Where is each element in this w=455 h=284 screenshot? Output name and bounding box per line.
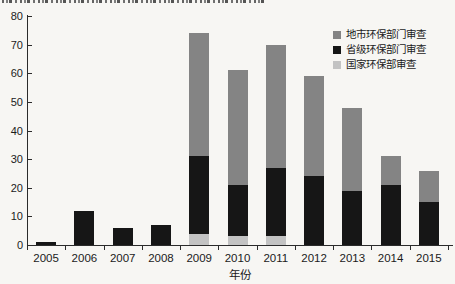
x-tick-7	[295, 246, 296, 250]
bar-2005	[36, 242, 56, 245]
y-tick-40	[28, 131, 32, 132]
x-tick-8	[333, 246, 334, 250]
x-axis-title: 年份	[27, 266, 453, 282]
x-tick-11	[448, 246, 449, 250]
bar-2008	[151, 225, 171, 245]
x-tick-label-2014: 2014	[371, 252, 411, 264]
legend-swatch-provincial	[333, 46, 341, 54]
bar-2011	[266, 45, 286, 245]
bar-segment-provincial-2013	[342, 191, 362, 245]
y-tick-label-40: 40	[0, 126, 23, 137]
x-tick-label-2006: 2006	[64, 252, 104, 264]
y-tick-80	[28, 16, 32, 17]
x-tick-3	[142, 246, 143, 250]
y-tick-60	[28, 73, 32, 74]
legend-label-municipal: 地市环保部门审查	[346, 29, 426, 40]
bar-segment-provincial-2008	[151, 225, 171, 245]
legend: 地市环保部门审查省级环保部门审查国家环保部审查	[333, 29, 426, 70]
y-tick-label-60: 60	[0, 68, 23, 79]
legend-swatch-national	[333, 61, 341, 69]
x-tick-label-2008: 2008	[141, 252, 181, 264]
legend-swatch-municipal	[333, 31, 341, 39]
x-tick-10	[410, 246, 411, 250]
bar-2012	[304, 76, 324, 245]
x-tick-1	[65, 246, 66, 250]
bar-segment-municipal-2013	[342, 108, 362, 191]
y-tick-label-20: 20	[0, 183, 23, 194]
x-tick-label-2005: 2005	[26, 252, 66, 264]
bar-segment-national-2010	[228, 236, 248, 245]
x-tick-5	[218, 246, 219, 250]
bar-segment-municipal-2014	[381, 156, 401, 185]
y-tick-label-70: 70	[0, 40, 23, 51]
bar-2010	[228, 70, 248, 245]
x-tick-label-2013: 2013	[332, 252, 372, 264]
y-tick-label-10: 10	[0, 211, 23, 222]
x-axis-line	[27, 245, 453, 246]
bar-segment-municipal-2010	[228, 70, 248, 185]
stacked-bar-chart: 01020304050607080 2005200620072008200920…	[0, 0, 455, 284]
bar-2006	[74, 211, 94, 245]
y-tick-label-80: 80	[0, 11, 23, 22]
bar-segment-provincial-2005	[36, 242, 56, 245]
bar-2009	[189, 33, 209, 245]
bar-segment-provincial-2007	[113, 228, 133, 245]
bar-segment-provincial-2006	[74, 211, 94, 245]
y-tick-label-30: 30	[0, 154, 23, 165]
bar-segment-municipal-2012	[304, 76, 324, 176]
x-tick-9	[371, 246, 372, 250]
bar-segment-provincial-2010	[228, 185, 248, 237]
y-tick-20	[28, 188, 32, 189]
x-tick-2	[104, 246, 105, 250]
y-tick-50	[28, 102, 32, 103]
y-tick-label-50: 50	[0, 97, 23, 108]
bar-segment-provincial-2011	[266, 168, 286, 237]
y-tick-30	[28, 159, 32, 160]
legend-label-provincial: 省级环保部门审查	[346, 44, 426, 55]
y-tick-label-0: 0	[0, 240, 23, 251]
bar-2013	[342, 108, 362, 245]
legend-label-national: 国家环保部审查	[346, 59, 416, 70]
x-tick-label-2010: 2010	[218, 252, 258, 264]
legend-item-national: 国家环保部审查	[333, 59, 426, 70]
clipped-caption-fragment	[2, 0, 267, 3]
bar-segment-municipal-2011	[266, 45, 286, 168]
x-tick-label-2012: 2012	[294, 252, 334, 264]
x-tick-4	[180, 246, 181, 250]
bar-segment-national-2011	[266, 236, 286, 245]
y-tick-10	[28, 216, 32, 217]
x-tick-label-2011: 2011	[256, 252, 296, 264]
bar-segment-provincial-2009	[189, 156, 209, 233]
bar-2015	[419, 171, 439, 245]
legend-item-municipal: 地市环保部门审查	[333, 29, 426, 40]
x-tick-6	[257, 246, 258, 250]
x-tick-label-2007: 2007	[103, 252, 143, 264]
x-tick-label-2015: 2015	[409, 252, 449, 264]
bar-2007	[113, 228, 133, 245]
bar-segment-provincial-2014	[381, 185, 401, 245]
bar-2014	[381, 156, 401, 245]
bar-segment-provincial-2015	[419, 202, 439, 245]
bar-segment-national-2009	[189, 234, 209, 245]
x-tick-label-2009: 2009	[179, 252, 219, 264]
x-tick-0	[27, 246, 28, 250]
y-tick-70	[28, 45, 32, 46]
bar-segment-provincial-2012	[304, 176, 324, 245]
bar-segment-municipal-2009	[189, 33, 209, 156]
legend-item-provincial: 省级环保部门审查	[333, 44, 426, 55]
bar-segment-municipal-2015	[419, 171, 439, 202]
